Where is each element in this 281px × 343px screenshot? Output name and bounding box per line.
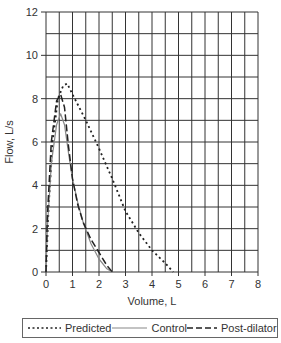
legend: Predicted Control Post-dilator — [22, 318, 278, 338]
legend-label: Post-dilator — [221, 322, 277, 334]
y-axis-ticks: 024681012 — [26, 6, 46, 278]
series-predicted — [46, 84, 173, 273]
x-tick-label: 5 — [175, 278, 181, 290]
solid-line-icon — [111, 326, 147, 330]
legend-label: Predicted — [65, 322, 111, 334]
y-tick-label: 8 — [32, 93, 38, 105]
y-tick-label: 6 — [32, 136, 38, 148]
x-axis-ticks: 012345678 — [43, 272, 261, 290]
x-tick-label: 3 — [122, 278, 128, 290]
x-tick-label: 6 — [202, 278, 208, 290]
grid — [46, 12, 258, 272]
y-tick-label: 10 — [26, 49, 38, 61]
y-tick-label: 2 — [32, 223, 38, 235]
legend-item-predicted: Predicted — [27, 322, 111, 334]
x-tick-label: 8 — [255, 278, 261, 290]
legend-item-post-dilator: Post-dilator — [187, 322, 277, 334]
y-tick-label: 4 — [32, 179, 38, 191]
x-tick-label: 1 — [69, 278, 75, 290]
legend-label: Control — [151, 322, 186, 334]
legend-item-control: Control — [111, 322, 186, 334]
dashed-line-icon — [187, 326, 217, 330]
series-control — [46, 114, 112, 272]
y-axis-label: Flow, L/s — [3, 120, 15, 164]
x-tick-label: 4 — [149, 278, 155, 290]
series-lines — [46, 84, 173, 273]
x-axis-label: Volume, L — [128, 295, 177, 307]
y-tick-label: 12 — [26, 6, 38, 18]
y-tick-label: 0 — [32, 266, 38, 278]
x-tick-label: 7 — [228, 278, 234, 290]
x-tick-label: 0 — [43, 278, 49, 290]
x-tick-label: 2 — [96, 278, 102, 290]
dotted-line-icon — [27, 326, 61, 330]
flow-volume-chart: 024681012 012345678 Flow, L/s Volume, L — [0, 0, 281, 318]
